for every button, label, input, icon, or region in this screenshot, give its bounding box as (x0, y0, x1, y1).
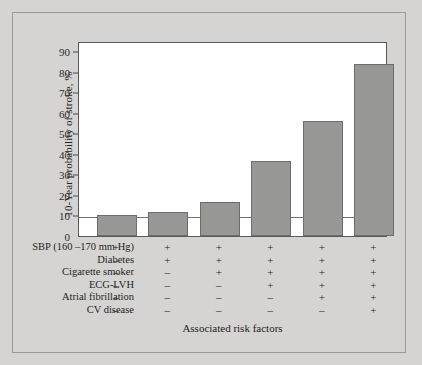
risk-factor-cell: + (159, 241, 175, 254)
risk-factor-cell: + (314, 279, 330, 292)
y-axis-tick-label: 10 (59, 211, 70, 222)
risk-factor-cell: + (365, 304, 381, 317)
y-axis-tick-label: 90 (59, 47, 70, 58)
risk-factor-cell: + (314, 266, 330, 279)
x-axis-title: Associated risk factors (78, 322, 387, 334)
risk-factor-cell: + (211, 241, 227, 254)
risk-factor-cell: + (211, 254, 227, 267)
risk-factor-cell: + (211, 266, 227, 279)
risk-factor-cell: + (262, 279, 278, 292)
risk-factor-cell: + (365, 291, 381, 304)
risk-factor-cell: – (262, 304, 278, 317)
y-axis-tick-label: 20 (59, 190, 70, 201)
y-axis-tick-label: 40 (59, 149, 70, 160)
y-axis-tick-label: 50 (59, 129, 70, 140)
risk-factor-cell: – (108, 266, 124, 279)
bar (251, 161, 291, 236)
risk-factor-cell: + (365, 279, 381, 292)
bar (148, 212, 188, 236)
bar (303, 121, 343, 236)
risk-factor-cell: – (262, 291, 278, 304)
risk-factor-matrix: SBP (160 –170 mm Hg)++++++Diabetes–+++++… (12, 241, 392, 317)
risk-factor-cell: – (159, 266, 175, 279)
risk-factor-cell: – (108, 254, 124, 267)
risk-factor-row: ECG-LVH–––+++ (12, 279, 392, 292)
risk-factor-cell: + (365, 241, 381, 254)
risk-factor-cell: + (108, 241, 124, 254)
risk-factor-cell: + (262, 241, 278, 254)
risk-factor-cell: + (262, 266, 278, 279)
risk-factor-row: Cigarette smoker––++++ (12, 266, 392, 279)
risk-factor-cell: + (365, 254, 381, 267)
bar (97, 215, 137, 236)
risk-factor-cell: – (108, 291, 124, 304)
risk-factor-cell: – (211, 279, 227, 292)
risk-factor-cell: – (159, 304, 175, 317)
risk-factor-cell: – (159, 291, 175, 304)
risk-factor-cell: + (314, 291, 330, 304)
y-axis-tick-label: 60 (59, 108, 70, 119)
figure-container: 10-Year probability of stroke, % 0102030… (0, 0, 422, 365)
risk-factor-cell: + (314, 254, 330, 267)
risk-factor-cell: + (159, 254, 175, 267)
y-axis-title: 10-Year probability of stroke, % (62, 54, 74, 234)
risk-factor-cell: – (211, 304, 227, 317)
plot-area (78, 42, 387, 237)
risk-factor-row: CV disease–––––+ (12, 304, 392, 317)
y-axis-tick-label: 30 (59, 170, 70, 181)
risk-factor-cell: + (365, 266, 381, 279)
risk-factor-cell: – (108, 304, 124, 317)
y-axis-tick-label: 70 (59, 88, 70, 99)
risk-factor-cell: + (314, 241, 330, 254)
y-axis: 10-Year probability of stroke, % 0102030… (40, 42, 78, 237)
risk-factor-cell: – (314, 304, 330, 317)
risk-factor-cell: – (108, 279, 124, 292)
risk-factor-row: Atrial fibrillation––––++ (12, 291, 392, 304)
risk-factor-row: Diabetes–+++++ (12, 254, 392, 267)
bar (200, 202, 240, 236)
y-axis-tick-label: 80 (59, 67, 70, 78)
risk-factor-row: SBP (160 –170 mm Hg)++++++ (12, 241, 392, 254)
bar (354, 64, 394, 236)
plot-inner (79, 43, 386, 236)
risk-factor-cell: + (262, 254, 278, 267)
risk-factor-cell: – (159, 279, 175, 292)
risk-factor-cell: – (211, 291, 227, 304)
